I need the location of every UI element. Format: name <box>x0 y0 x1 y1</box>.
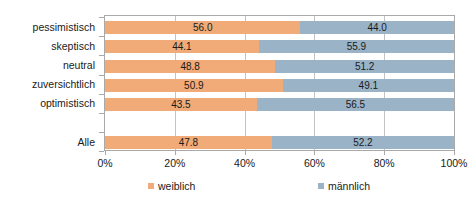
category-label: neutral <box>63 59 95 71</box>
axis-tick <box>314 151 315 155</box>
bar-value-label-weiblich: 47.8 <box>105 136 272 149</box>
category-tick <box>99 36 104 37</box>
category-tick <box>99 94 104 95</box>
bar-rows: 56.044.044.155.948.851.250.949.143.556.5… <box>105 16 454 150</box>
table-row: 47.852.2 <box>105 136 454 149</box>
axis-tick-label: 20% <box>164 157 185 169</box>
table-row: 50.949.1 <box>105 79 454 92</box>
category-tick <box>99 113 104 114</box>
category-label: zuversichtlich <box>32 78 95 90</box>
bar-value-label-maennlich: 55.9 <box>259 40 454 53</box>
bar-value-label-weiblich: 56.0 <box>105 21 300 34</box>
plot-area: 56.044.044.155.948.851.250.949.143.556.5… <box>104 15 455 151</box>
category-tick <box>99 55 104 56</box>
axis-tick <box>454 151 455 155</box>
axis-tick <box>175 151 176 155</box>
legend-swatch-icon <box>318 183 324 189</box>
bar-value-label-maennlich: 56.5 <box>257 98 454 111</box>
value-axis: 0%20%40%60%80%100% <box>0 157 476 171</box>
bar-value-label-maennlich: 44.0 <box>300 21 454 34</box>
stacked-bar-chart: pessimistischskeptischneutralzuversichtl… <box>0 0 476 201</box>
category-tick <box>99 17 104 18</box>
axis-tick-label: 0% <box>97 157 112 169</box>
legend-swatch-icon <box>148 183 154 189</box>
axis-tick-label: 60% <box>304 157 325 169</box>
bar-value-label-maennlich: 52.2 <box>272 136 454 149</box>
bar-value-label-weiblich: 43.5 <box>105 98 257 111</box>
category-tick <box>99 151 104 152</box>
bar-value-label-weiblich: 50.9 <box>105 79 283 92</box>
table-row: 48.851.2 <box>105 60 454 73</box>
axis-tick <box>105 151 106 155</box>
axis-tick <box>245 151 246 155</box>
cropped-title-remnant <box>300 0 420 4</box>
category-label: skeptisch <box>51 40 95 52</box>
axis-tick-label: 40% <box>234 157 255 169</box>
bar-value-label-maennlich: 51.2 <box>275 60 454 73</box>
legend-item[interactable]: männlich <box>318 180 370 192</box>
axis-tick-label: 100% <box>441 157 468 169</box>
table-row: 44.155.9 <box>105 40 454 53</box>
table-row: 43.556.5 <box>105 98 454 111</box>
category-label: pessimistisch <box>33 21 95 33</box>
legend: weiblichmännlich <box>0 180 476 196</box>
bar-value-label-weiblich: 44.1 <box>105 40 259 53</box>
category-label: optimistisch <box>40 97 95 109</box>
category-label: Alle <box>77 136 95 148</box>
bar-value-label-maennlich: 49.1 <box>283 79 454 92</box>
legend-label: weiblich <box>158 180 195 192</box>
axis-tick <box>384 151 385 155</box>
legend-label: männlich <box>328 180 370 192</box>
category-tick <box>99 132 104 133</box>
legend-item[interactable]: weiblich <box>148 180 195 192</box>
table-row: 56.044.0 <box>105 21 454 34</box>
axis-tick-label: 80% <box>374 157 395 169</box>
category-tick <box>99 75 104 76</box>
bar-value-label-weiblich: 48.8 <box>105 60 275 73</box>
category-axis: pessimistischskeptischneutralzuversichtl… <box>0 15 100 151</box>
